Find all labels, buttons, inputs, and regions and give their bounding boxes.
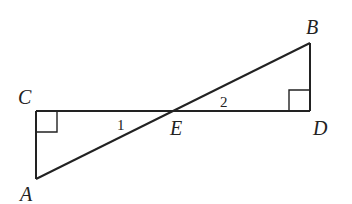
right-angle-mark-c — [36, 111, 57, 132]
point-label-d: D — [312, 117, 328, 139]
point-label-a: A — [18, 183, 33, 204]
point-label-c: C — [18, 86, 32, 108]
angle-label-2: 2 — [220, 94, 228, 110]
right-angle-mark-d — [289, 90, 310, 111]
point-label-e: E — [169, 117, 182, 139]
point-label-b: B — [306, 16, 318, 38]
angle-label-1: 1 — [117, 117, 125, 133]
geometry-diagram: B C E D A 1 2 — [0, 0, 352, 204]
